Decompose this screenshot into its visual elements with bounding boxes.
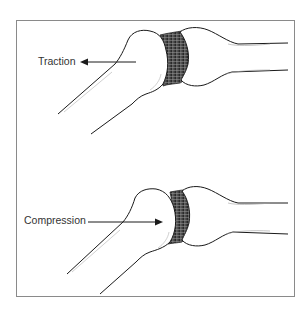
joint-diagram (0, 0, 308, 314)
left-bone-icon (67, 189, 176, 294)
right-bone-icon (180, 28, 288, 86)
compression-label: Compression (24, 214, 86, 226)
traction-label: Traction (38, 55, 76, 67)
traction-panel (58, 28, 288, 134)
right-bone-icon (182, 187, 288, 246)
compression-panel (67, 187, 288, 294)
arrowhead-left-icon (80, 59, 88, 66)
left-bone-icon (58, 30, 168, 134)
